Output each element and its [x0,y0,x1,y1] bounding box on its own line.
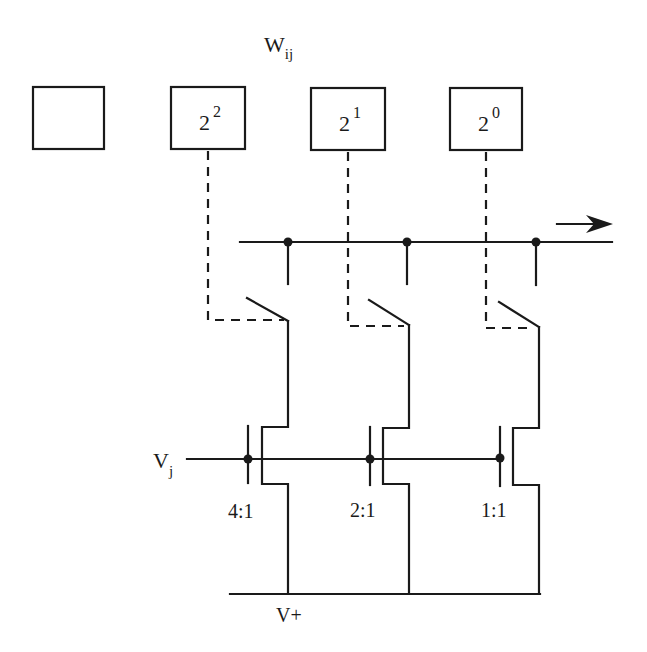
transistor-1-1-channel [513,327,539,594]
ratio-label-2-1: 2:1 [350,499,376,521]
input-line [187,454,505,464]
control-line-2-0 [486,152,534,328]
weight-box-sign [33,87,104,149]
switch-2-1 [369,300,409,325]
switch-2-0 [499,302,539,327]
switches [247,298,539,327]
switch-2-2 [247,298,288,321]
transistor-4-1-channel [262,321,288,594]
weight-bit-boxes: 22 21 20 [33,87,522,150]
gate-node [366,455,375,464]
weight-label: Wij [264,32,293,62]
control-line-2-2 [208,151,284,320]
input-voltage-label: Vj [153,448,173,479]
supply-voltage-label: V+ [276,604,302,626]
gate-node [244,455,253,464]
right-arrow-icon [557,215,613,233]
output-bus [240,238,612,286]
binary-weighted-current-dac-diagram: Wij 22 21 20 [0,0,647,652]
transistor-gates [248,426,500,486]
gate-node [496,454,505,463]
control-line-2-1 [348,152,404,326]
ratio-label-4-1: 4:1 [228,500,254,522]
ratio-label-1-1: 1:1 [481,499,507,521]
